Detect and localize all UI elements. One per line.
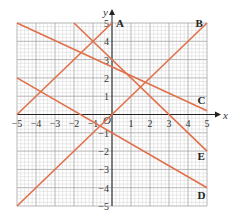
y-tick-label: −4 [98,183,109,194]
x-tick-label: −5 [12,118,23,129]
x-tick-label: −3 [50,118,61,129]
y-tick-label: −2 [98,146,109,157]
y-tick-label: 4 [104,36,109,47]
x-tick-label: 4 [186,118,191,129]
line-label-e: E [198,150,205,162]
y-axis-label: y [102,6,108,18]
x-tick-label: 5 [205,118,210,129]
y-tick-label: 2 [104,73,109,84]
y-tick-label: 1 [104,91,109,102]
x-tick-label: 2 [148,118,153,129]
line-label-c: C [198,94,206,106]
x-axis-label: x [222,109,228,121]
line-label-d: D [198,189,206,201]
x-tick-label: 3 [167,118,172,129]
y-tick-label: −3 [98,164,109,175]
coordinate-plot: xyO−5−4−3−2−112345−5−4−3−2−112345 ABCDE [0,0,233,219]
x-tick-label: −4 [31,118,42,129]
line-label-b: B [196,17,204,29]
line-a [17,23,112,115]
line-label-a: A [116,17,124,29]
x-tick-label: −2 [69,118,80,129]
y-tick-label: −5 [98,201,109,212]
x-tick-label: 1 [129,118,134,129]
